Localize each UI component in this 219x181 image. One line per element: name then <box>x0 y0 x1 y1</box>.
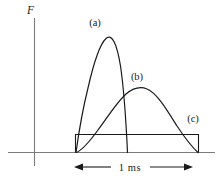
curve-c-label: (c) <box>187 113 199 125</box>
arrow-head-left-icon <box>74 164 83 171</box>
force-axis-label: F <box>26 4 35 16</box>
curve-a-label: (a) <box>89 17 101 29</box>
curve-b-label: (b) <box>131 71 144 83</box>
figure-canvas: F (a) (b) (c) 1 ms <box>0 0 219 181</box>
curve-a-path <box>76 37 128 152</box>
arrow-head-right-icon <box>184 164 193 171</box>
force-time-figure: F (a) (b) (c) 1 ms <box>0 0 219 181</box>
dimension-label: 1 ms <box>119 162 142 173</box>
curve-c-rectangle <box>76 135 199 153</box>
curve-b-path <box>77 88 199 153</box>
